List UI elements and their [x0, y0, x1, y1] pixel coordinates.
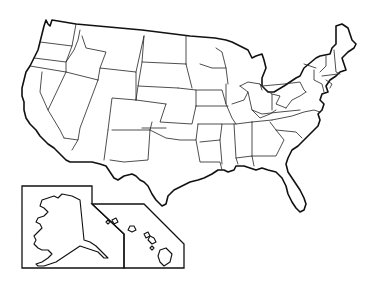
- mainland-us-outline: [22, 20, 356, 212]
- hawaii-island: [150, 246, 154, 250]
- hawaii-island: [148, 236, 156, 244]
- us-outline-map: [0, 0, 374, 288]
- hawaii-island: [128, 226, 136, 232]
- hawaii-island: [158, 248, 172, 266]
- alaska-shape: [34, 194, 108, 266]
- us-map: [0, 0, 374, 288]
- hawaii-islands: [106, 218, 172, 266]
